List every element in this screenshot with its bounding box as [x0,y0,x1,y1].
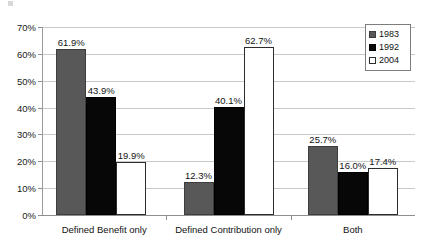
y-tick-label: 60% [17,48,36,59]
chart-legend: 1983 1992 2004 [365,24,411,71]
bar-1983-2[interactable] [184,182,214,215]
gray-swatch-icon [369,31,376,38]
data-label-1983-3: 25.7% [309,134,336,145]
legend-label-1983: 1983 [379,30,399,39]
y-tick-label: 50% [17,75,36,86]
category-label: Defined Benefit only [62,224,147,235]
y-tick-label: 40% [17,102,36,113]
y-tick-label: 0% [22,210,36,221]
data-label-1992-3: 16.0% [339,160,366,171]
legend-item-2004[interactable]: 2004 [369,54,408,67]
legend-item-1983[interactable]: 1983 [369,28,408,41]
y-tick-label: 10% [17,183,36,194]
data-label-2004-2: 62.7% [245,35,272,46]
bar-1992-2[interactable] [214,107,244,215]
legend-item-1992[interactable]: 1992 [369,41,408,54]
plot-area: 61.9%43.9%19.9%12.3%40.1%62.7%25.7%16.0%… [42,27,415,215]
bar-1992-3[interactable] [338,172,368,215]
category-separator-tick [166,215,167,220]
bar-2004-2[interactable] [244,47,274,215]
page-artifact [8,1,13,6]
black-swatch-icon [369,44,376,51]
x-axis-line [42,215,415,216]
bar-2004-3[interactable] [368,168,398,215]
category-label: Both [343,224,363,235]
legend-label-2004: 2004 [379,56,399,65]
data-label-1992-1: 43.9% [88,85,115,96]
data-label-2004-1: 19.9% [118,150,145,161]
bar-2004-1[interactable] [116,162,146,215]
legend-label-1992: 1992 [379,43,399,52]
y-tick-label: 20% [17,156,36,167]
bar-1992-1[interactable] [86,97,116,215]
data-label-2004-3: 17.4% [369,156,396,167]
data-label-1992-2: 40.1% [215,95,242,106]
category-separator-tick [291,215,292,220]
grouped-bar-chart: 0%10%20%30%40%50%60%70% 61.9%43.9%19.9%1… [0,0,430,250]
white-swatch-icon [369,57,376,64]
y-tick-label: 30% [17,129,36,140]
bar-1983-1[interactable] [56,49,86,215]
category-label: Defined Contribution only [175,224,282,235]
y-tick-label: 70% [17,22,36,33]
data-label-1983-1: 61.9% [58,37,85,48]
data-label-1983-2: 12.3% [185,170,212,181]
bar-1983-3[interactable] [308,146,338,215]
